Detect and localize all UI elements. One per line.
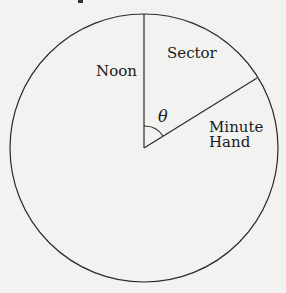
cropped-glyph-fragment	[78, 0, 83, 3]
sector-label: Sector	[167, 44, 218, 62]
theta-label: θ	[158, 107, 168, 126]
minute-hand-label-line2: Hand	[209, 133, 251, 151]
clock-diagram: Noon Sector θ Minute Hand	[0, 0, 286, 293]
noon-label: Noon	[96, 62, 137, 80]
